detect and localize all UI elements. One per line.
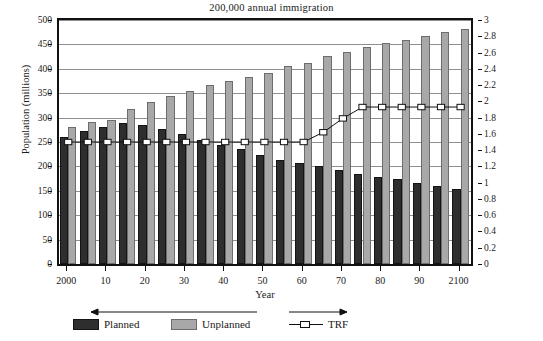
bar-unplanned[interactable] bbox=[147, 102, 155, 264]
bar-planned[interactable] bbox=[119, 123, 127, 264]
y-tick-mark bbox=[48, 118, 52, 119]
legend-item-unplanned[interactable]: Unplanned bbox=[171, 318, 250, 330]
bar-planned[interactable] bbox=[413, 183, 421, 264]
bar-planned[interactable] bbox=[99, 127, 107, 264]
y2-tick-mark bbox=[478, 118, 482, 119]
chart-title: 200,000 annual immigration bbox=[0, 2, 543, 13]
y2-tick-label: 2.6 bbox=[484, 48, 496, 58]
y2-tick-mark bbox=[478, 248, 482, 249]
y-tick-mark bbox=[48, 191, 52, 192]
y2-tick-label: 1 bbox=[484, 178, 489, 188]
y2-tick-label: 1.6 bbox=[484, 129, 496, 139]
bar-unplanned[interactable] bbox=[461, 29, 469, 264]
y-tick-label: 300 bbox=[18, 113, 52, 123]
bars-layer bbox=[59, 20, 471, 264]
bar-group bbox=[275, 20, 295, 264]
bar-planned[interactable] bbox=[276, 160, 284, 264]
bar-unplanned[interactable] bbox=[441, 32, 449, 264]
bar-planned[interactable] bbox=[60, 137, 68, 264]
bar-group bbox=[294, 20, 314, 264]
y2-tick-label: 2.8 bbox=[484, 31, 496, 41]
bar-unplanned[interactable] bbox=[343, 52, 351, 264]
legend-item-planned[interactable]: Planned bbox=[73, 318, 139, 330]
bar-planned[interactable] bbox=[256, 155, 264, 264]
y2-tick-mark bbox=[478, 101, 482, 102]
x-tick-label: 40 bbox=[218, 275, 228, 286]
bar-unplanned[interactable] bbox=[363, 47, 371, 264]
plot-area bbox=[57, 18, 473, 266]
bar-unplanned[interactable] bbox=[107, 120, 115, 264]
y2-tick-label: 0.6 bbox=[484, 210, 496, 220]
bar-group bbox=[451, 20, 471, 264]
y2-tick-label: 2.4 bbox=[484, 64, 496, 74]
bar-planned[interactable] bbox=[374, 177, 382, 264]
y-tick-label: 250 bbox=[18, 137, 52, 147]
bar-unplanned[interactable] bbox=[264, 73, 272, 264]
bar-group bbox=[236, 20, 256, 264]
bar-unplanned[interactable] bbox=[225, 81, 233, 264]
bar-unplanned[interactable] bbox=[166, 96, 174, 264]
x-tick-label: 30 bbox=[179, 275, 189, 286]
bar-planned[interactable] bbox=[237, 149, 245, 264]
legend-label-planned: Planned bbox=[104, 318, 139, 330]
bar-group bbox=[98, 20, 118, 264]
bar-group bbox=[157, 20, 177, 264]
right-axis-arrow bbox=[289, 309, 347, 315]
y2-tick-mark bbox=[478, 53, 482, 54]
y-axis-left-ticks: 050100150200250300350400450500 bbox=[14, 18, 52, 266]
x-tick-label: 50 bbox=[257, 275, 267, 286]
x-tick-label: 2100 bbox=[449, 275, 469, 286]
y-tick-mark bbox=[48, 166, 52, 167]
bar-unplanned[interactable] bbox=[245, 77, 253, 264]
bar-planned[interactable] bbox=[158, 129, 166, 264]
y2-tick-mark bbox=[478, 231, 482, 232]
y2-tick-label: 0.4 bbox=[484, 226, 496, 236]
bar-unplanned[interactable] bbox=[206, 85, 214, 264]
bar-unplanned[interactable] bbox=[382, 43, 390, 264]
bar-planned[interactable] bbox=[295, 163, 303, 264]
y2-tick-mark bbox=[478, 20, 482, 21]
bar-unplanned[interactable] bbox=[421, 36, 429, 264]
y2-tick-label: 2 bbox=[484, 96, 489, 106]
bar-planned[interactable] bbox=[354, 174, 362, 264]
x-tick-mark bbox=[459, 266, 460, 271]
legend-item-trf[interactable]: TRF bbox=[289, 318, 348, 330]
x-tick-mark bbox=[380, 266, 381, 271]
y-tick-label: 500 bbox=[18, 15, 52, 25]
bar-planned[interactable] bbox=[335, 170, 343, 264]
y-tick-mark bbox=[48, 44, 52, 45]
bar-planned[interactable] bbox=[138, 125, 146, 264]
bar-unplanned[interactable] bbox=[186, 91, 194, 264]
y2-tick-label: 0.2 bbox=[484, 243, 496, 253]
bar-unplanned[interactable] bbox=[402, 40, 410, 264]
y-tick-mark bbox=[48, 264, 52, 265]
bar-planned[interactable] bbox=[393, 179, 401, 264]
y-tick-mark bbox=[48, 93, 52, 94]
bar-unplanned[interactable] bbox=[88, 122, 96, 264]
x-tick-label: 70 bbox=[336, 275, 346, 286]
bar-group bbox=[216, 20, 236, 264]
bar-group bbox=[353, 20, 373, 264]
legend-items: Planned Unplanned TRF bbox=[57, 318, 477, 338]
bar-unplanned[interactable] bbox=[127, 109, 135, 264]
bar-planned[interactable] bbox=[178, 134, 186, 264]
bar-group bbox=[373, 20, 393, 264]
bar-unplanned[interactable] bbox=[68, 127, 76, 264]
bar-unplanned[interactable] bbox=[323, 56, 331, 264]
bar-unplanned[interactable] bbox=[284, 66, 292, 264]
bar-planned[interactable] bbox=[452, 189, 460, 264]
y-tick-label: 450 bbox=[18, 39, 52, 49]
chart-legend: Planned Unplanned TRF bbox=[57, 305, 477, 339]
y2-tick-label: 1.4 bbox=[484, 145, 496, 155]
y2-tick-mark bbox=[478, 215, 482, 216]
bar-planned[interactable] bbox=[315, 166, 323, 264]
y-tick-mark bbox=[48, 69, 52, 70]
y2-tick-mark bbox=[478, 166, 482, 167]
bar-unplanned[interactable] bbox=[304, 63, 312, 264]
bar-planned[interactable] bbox=[197, 140, 205, 264]
bar-planned[interactable] bbox=[433, 186, 441, 264]
x-tick-mark bbox=[419, 266, 420, 271]
bar-planned[interactable] bbox=[80, 131, 88, 264]
y-tick-mark bbox=[48, 142, 52, 143]
bar-planned[interactable] bbox=[217, 145, 225, 264]
